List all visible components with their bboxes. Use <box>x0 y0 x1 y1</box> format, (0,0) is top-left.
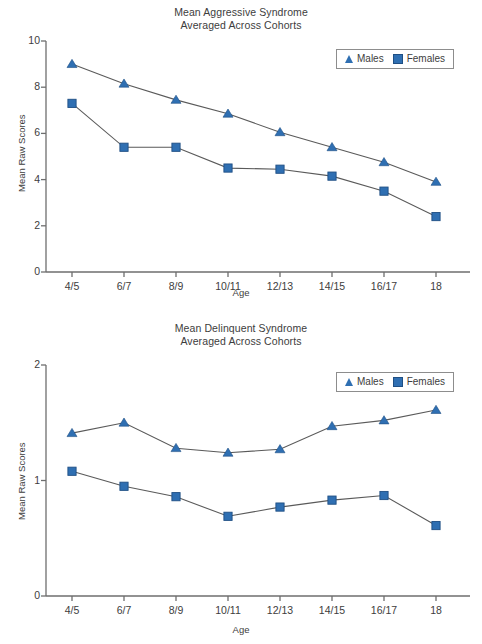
chart-delinquent-syndrome: Mean Delinquent Syndrome Averaged Across… <box>0 308 482 644</box>
x-tick-label: 8/9 <box>150 280 202 292</box>
x-tick-label: 4/5 <box>46 280 98 292</box>
x-tick-label: 4/5 <box>46 604 98 616</box>
y-tick-label: 0 <box>12 589 40 601</box>
chart-aggressive-syndrome: Mean Aggressive Syndrome Averaged Across… <box>0 0 482 322</box>
x-tick-label: 18 <box>410 604 462 616</box>
x-tick-label: 12/13 <box>254 280 306 292</box>
x-tick-label: 6/7 <box>98 280 150 292</box>
x-tick-label: 18 <box>410 280 462 292</box>
legend-label-males: Males <box>357 376 384 387</box>
x-tick-label: 14/15 <box>306 604 358 616</box>
x-tick-label: 6/7 <box>98 604 150 616</box>
y-tick-label: 10 <box>12 34 40 46</box>
x-tick-label: 10/11 <box>202 280 254 292</box>
y-tick-label: 1 <box>12 474 40 486</box>
y-tick-label: 2 <box>12 219 40 231</box>
x-tick-label: 12/13 <box>254 604 306 616</box>
plot-area-delinquent <box>0 308 482 644</box>
legend-label-males: Males <box>357 53 384 64</box>
x-axis-label-delinquent: Age <box>0 624 482 635</box>
legend-delinquent: Males Females <box>336 372 454 392</box>
y-tick-label: 6 <box>12 126 40 138</box>
legend-aggressive: Males Females <box>336 49 454 69</box>
legend-label-females: Females <box>407 53 445 64</box>
x-tick-label: 8/9 <box>150 604 202 616</box>
x-tick-label: 16/17 <box>358 604 410 616</box>
square-marker-icon <box>393 54 403 64</box>
x-tick-label: 16/17 <box>358 280 410 292</box>
y-tick-label: 2 <box>12 358 40 370</box>
legend-entry-females: Females <box>393 376 445 387</box>
legend-label-females: Females <box>407 376 445 387</box>
y-tick-label: 4 <box>12 173 40 185</box>
legend-entry-females: Females <box>393 53 445 64</box>
x-tick-label: 10/11 <box>202 604 254 616</box>
square-marker-icon <box>393 377 403 387</box>
y-tick-label: 0 <box>12 265 40 277</box>
y-tick-label: 8 <box>12 80 40 92</box>
legend-entry-males: Males <box>345 376 384 387</box>
triangle-marker-icon <box>345 55 353 63</box>
triangle-marker-icon <box>345 378 353 386</box>
x-tick-label: 14/15 <box>306 280 358 292</box>
legend-entry-males: Males <box>345 53 384 64</box>
